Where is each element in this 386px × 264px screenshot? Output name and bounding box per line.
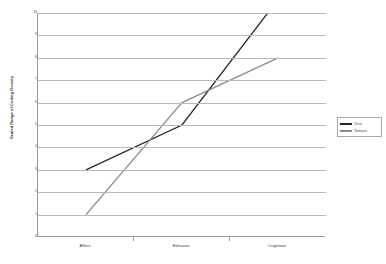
gridline: [38, 125, 326, 126]
series-line: [86, 13, 278, 170]
gridline: [38, 170, 326, 171]
legend-swatch-icon: [340, 123, 352, 125]
y-axis-title: Scaled Range of Coding Density: [9, 48, 14, 168]
gridline: [38, 147, 326, 148]
legend-label: Tamara: [354, 129, 367, 133]
legend-swatch-icon: [340, 130, 352, 132]
y-axis-tick-label: 8: [23, 56, 37, 59]
x-axis-tick: [229, 237, 230, 241]
y-axis-tick-label: 4: [23, 145, 37, 148]
gridline: [38, 103, 326, 104]
y-axis-tick-label: 3: [23, 168, 37, 171]
plot-area: [37, 13, 325, 237]
y-axis-tick-label: 6: [23, 101, 37, 104]
gridline: [38, 13, 326, 14]
gridline: [38, 192, 326, 193]
y-axis-tick-label: 9: [23, 33, 37, 36]
y-axis-tick-label: 5: [23, 123, 37, 126]
gridline: [38, 215, 326, 216]
legend-item: Tamara: [340, 127, 379, 134]
y-axis-tick-label: 1: [23, 213, 37, 216]
x-axis-tick-label: Affect: [50, 243, 120, 248]
gridline: [38, 58, 326, 59]
gridline: [38, 80, 326, 81]
y-axis-tick-label: 10: [23, 11, 37, 14]
y-axis-tick-label: 2: [23, 190, 37, 193]
chart-legend: TinaTamara: [337, 117, 382, 137]
legend-label: Tina: [354, 122, 362, 126]
x-axis-tick-label: Cognition: [242, 243, 312, 248]
line-chart: Scaled Range of Coding Density 012345678…: [0, 0, 386, 264]
y-axis-tick-label: 0: [23, 235, 37, 238]
y-axis-tick-label: 7: [23, 78, 37, 81]
x-axis-tick: [133, 237, 134, 241]
x-axis-tick-label: Behavior: [146, 243, 216, 248]
gridline: [38, 35, 326, 36]
series-line: [86, 58, 278, 215]
y-axis-tick-labels: 012345678910: [20, 0, 37, 264]
legend-item: Tina: [340, 120, 379, 127]
